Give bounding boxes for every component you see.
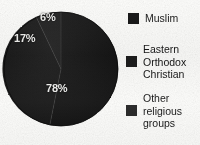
pie-svg — [0, 0, 124, 145]
legend-label-other-religious-groups: Other religious groups — [143, 92, 182, 130]
legend-label-muslim: Muslim — [145, 12, 178, 25]
legend-item-other-religious-groups: Other religious groups — [126, 92, 182, 130]
pie-label-eastern-orthodox-christian: 17% — [14, 32, 35, 44]
chart-legend: Muslim Eastern Orthodox Christian Other … — [124, 0, 200, 145]
legend-label-eastern-orthodox-christian: Eastern Orthodox Christian — [143, 43, 186, 81]
pie-label-other-religious-groups: 6% — [40, 11, 56, 23]
legend-swatch-other-religious-groups — [126, 105, 137, 116]
pie-chart-plot-area: 6% 17% 78% — [0, 0, 124, 145]
legend-item-muslim: Muslim — [128, 12, 178, 25]
legend-swatch-eastern-orthodox-christian — [126, 56, 137, 67]
pie-chart-figure: 6% 17% 78% Muslim Eastern Orthodox Chris… — [0, 0, 200, 145]
legend-swatch-muslim — [128, 13, 139, 24]
legend-item-eastern-orthodox-christian: Eastern Orthodox Christian — [126, 43, 186, 81]
pie-label-muslim: 78% — [46, 82, 67, 94]
